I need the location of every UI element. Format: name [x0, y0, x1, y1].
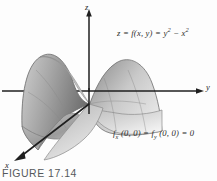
partial-fx-arguments: (0, 0) = [119, 128, 152, 138]
partial-derivatives-annotation: fx (0, 0) = fy (0, 0) = 0 [113, 128, 194, 138]
figure-caption: FIGURE 17.14 [2, 167, 77, 179]
surface-equation-annotation: z = f(x, y) = y2 − x2 [117, 28, 189, 38]
y-axis-label: y [206, 82, 210, 92]
z-axis-back [86, 9, 92, 92]
partial-fy-arguments: (0, 0) = [157, 128, 190, 138]
figure-container: z y x z = f(x, y) = y2 − x2 fx (0, 0) = … [0, 0, 217, 181]
surface-equation-term2-exponent: 2 [186, 26, 189, 33]
partial-value: 0 [190, 128, 195, 138]
z-axis-label: z [85, 2, 88, 12]
surface-equation-operator: − [171, 28, 182, 38]
surface-equation-lhs: z = f(x, y) = [117, 28, 163, 38]
